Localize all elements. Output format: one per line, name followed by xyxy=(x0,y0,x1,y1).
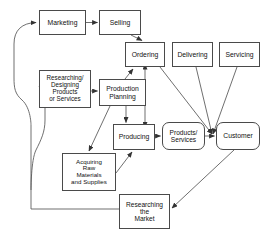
node-servicing[interactable]: Servicing xyxy=(219,42,260,67)
node-producing[interactable]: Producing xyxy=(113,124,155,150)
node-ordering[interactable]: Ordering xyxy=(125,42,165,67)
node-servicing-label: Servicing xyxy=(225,51,255,58)
node-marketing-label: Marketing xyxy=(47,19,79,26)
edge-production-planning-to-ordering xyxy=(125,69,133,79)
node-researching-designing-label: Researching/ Designing Products or Servi… xyxy=(45,75,84,102)
node-selling-label: Selling xyxy=(109,19,131,26)
node-researching-designing[interactable]: Researching/ Designing Products or Servi… xyxy=(39,70,91,108)
node-selling[interactable]: Selling xyxy=(99,10,141,35)
flowchart-diagram: Marketing Selling Ordering Delivering Se… xyxy=(0,0,269,240)
node-producing-label: Producing xyxy=(118,133,151,140)
edge-production-planning-to-acquiring xyxy=(89,106,110,151)
node-delivering-label: Delivering xyxy=(176,51,208,58)
edge-acquiring-to-producing xyxy=(116,152,132,173)
node-customer-label: Customer xyxy=(222,132,253,139)
node-acquiring-raw-materials-label: Acquiring Raw Materials and Supplies xyxy=(70,159,108,186)
node-marketing[interactable]: Marketing xyxy=(39,10,86,35)
node-researching-the-market[interactable]: Researching the Market xyxy=(119,194,170,229)
node-products-services-label: Products/ Services xyxy=(169,129,199,143)
edge-customer-to-researching-market xyxy=(172,150,234,208)
node-production-planning-label: Production Planning xyxy=(105,85,140,100)
node-production-planning[interactable]: Production Planning xyxy=(99,79,146,106)
edge-selling-to-ordering xyxy=(131,35,142,41)
node-delivering[interactable]: Delivering xyxy=(172,42,213,67)
node-researching-the-market-label: Researching the Market xyxy=(125,201,164,222)
node-acquiring-raw-materials[interactable]: Acquiring Raw Materials and Supplies xyxy=(62,153,116,191)
node-products-services[interactable]: Products/ Services xyxy=(162,122,205,150)
node-ordering-label: Ordering xyxy=(131,51,159,58)
node-customer[interactable]: Customer xyxy=(216,122,260,150)
